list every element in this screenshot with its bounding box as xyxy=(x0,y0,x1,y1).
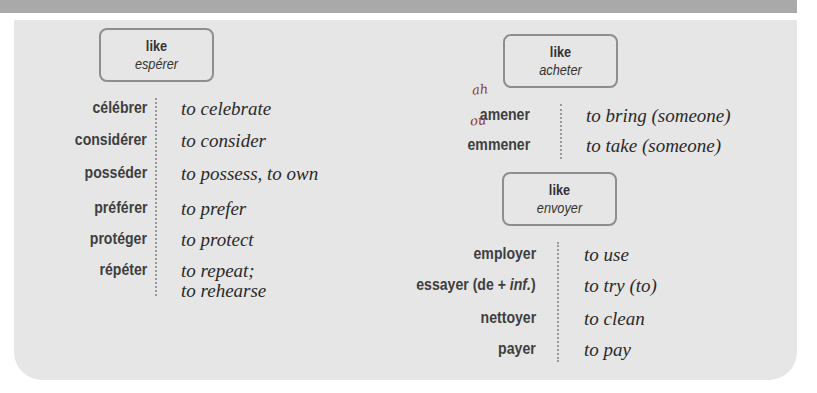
translation: to possess, to own xyxy=(181,163,318,184)
box-label: like xyxy=(109,37,203,55)
verb-repeter: répéter xyxy=(99,261,147,279)
divider-dotted xyxy=(155,98,157,296)
verb-italic: inf. xyxy=(510,276,531,293)
verb-essayer: essayer (de + inf.) xyxy=(417,276,536,294)
verb-proteger: protéger xyxy=(90,230,147,248)
verb-text: essayer (de + xyxy=(417,276,511,293)
translation: to bring (someone) xyxy=(586,105,731,126)
translation: to clean xyxy=(584,308,645,329)
box-model-verb: espérer xyxy=(109,55,203,73)
translation: to prefer xyxy=(181,198,246,219)
translation-line2: to rehearse xyxy=(181,280,266,301)
translation: to consider xyxy=(181,130,266,151)
handwritten-annotation: ou xyxy=(469,112,487,129)
verb-end: ) xyxy=(531,276,536,293)
verb-celebrer: célébrer xyxy=(92,99,147,117)
header-band xyxy=(0,0,797,13)
verb-employer: employer xyxy=(473,245,536,263)
translation: to protect xyxy=(181,229,254,250)
like-acheter-box: like acheter xyxy=(503,34,618,88)
verb-emmener: emmener xyxy=(467,136,530,154)
handwritten-annotation: ah xyxy=(471,81,489,98)
verb-payer: payer xyxy=(498,340,536,358)
box-model-verb: envoyer xyxy=(512,199,606,217)
like-envoyer-box: like envoyer xyxy=(502,172,617,226)
translation: to repeat; xyxy=(181,260,255,281)
verb-nettoyer: nettoyer xyxy=(480,309,536,327)
divider-dotted xyxy=(557,242,559,362)
translation: to celebrate xyxy=(181,98,271,119)
box-label: like xyxy=(513,43,607,61)
translation: to take (someone) xyxy=(586,135,721,156)
verb-considerer: considérer xyxy=(75,131,147,149)
box-model-verb: acheter xyxy=(513,61,607,79)
verb-posseder: posséder xyxy=(84,164,147,182)
translation: to pay xyxy=(584,339,631,360)
divider-dotted xyxy=(560,104,562,159)
verb-amener: amener xyxy=(480,106,530,124)
verb-preferer: préférer xyxy=(94,199,147,217)
translation: to use xyxy=(584,244,629,265)
like-esperer-box: like espérer xyxy=(99,28,214,82)
translation: to try (to) xyxy=(584,275,657,296)
box-label: like xyxy=(512,181,606,199)
